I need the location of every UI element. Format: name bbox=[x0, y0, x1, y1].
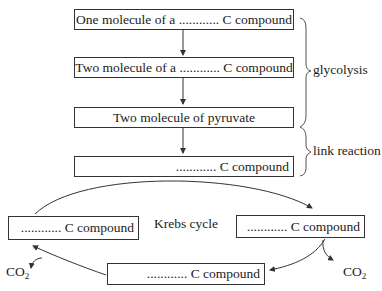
co2-arrow-right bbox=[323, 240, 333, 260]
step-2-text: Two molecule of a ............ C compoun… bbox=[75, 58, 293, 77]
cycle-box-bottom: ............ C compound bbox=[107, 263, 265, 285]
link-reaction-label: link reaction bbox=[313, 143, 381, 159]
step-box-1: One molecule of a ............ C compoun… bbox=[74, 9, 294, 30]
glycolysis-brace bbox=[300, 18, 311, 127]
arrow-top-arc bbox=[35, 181, 312, 214]
arrow-bottom-to-left bbox=[33, 246, 106, 275]
cycle-right-text: ............ C compound bbox=[237, 216, 364, 237]
step-box-4: ............ C compound bbox=[74, 156, 294, 177]
krebs-cycle-label: Krebs cycle bbox=[154, 216, 218, 232]
step-1-text: One molecule of a ............ C compoun… bbox=[75, 10, 293, 29]
step-box-2: Two molecule of a ............ C compoun… bbox=[74, 57, 294, 78]
arrow-right-to-bottom bbox=[270, 239, 325, 270]
cycle-left-text: ............ C compound bbox=[9, 217, 138, 239]
step-3-text: Two molecule of pyruvate bbox=[75, 108, 293, 127]
link-reaction-brace bbox=[300, 127, 311, 176]
co2-left-label: CO2 bbox=[6, 264, 29, 281]
step-box-3: Two molecule of pyruvate bbox=[74, 107, 294, 128]
cycle-box-left: ............ C compound bbox=[8, 216, 139, 240]
cycle-box-right: ............ C compound bbox=[236, 215, 365, 238]
cycle-bottom-text: ............ C compound bbox=[108, 264, 264, 284]
co2-right-label: CO2 bbox=[343, 264, 366, 281]
glycolysis-label: glycolysis bbox=[313, 62, 368, 78]
co2-arrow-left bbox=[31, 258, 42, 268]
step-4-text: ............ C compound bbox=[75, 157, 293, 176]
